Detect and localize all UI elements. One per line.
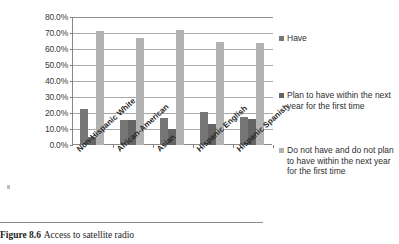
y-axis-tick-labels: 80.0%70.0%60.0%50.0%40.0%30.0%20.0%10.0%… xyxy=(18,11,68,145)
y-axis-tick-label: 70.0% xyxy=(18,29,68,38)
caption-text: Access to satellite radio xyxy=(44,230,134,240)
scan-artifact xyxy=(7,185,10,189)
y-axis-tick-label: 60.0% xyxy=(18,45,68,54)
legend-item[interactable]: Plan to have within the next year for th… xyxy=(279,90,395,111)
bar-group xyxy=(152,17,192,145)
legend-swatch-icon xyxy=(279,148,284,153)
legend-swatch-icon xyxy=(279,93,284,98)
legend-item[interactable]: Have xyxy=(279,33,307,44)
legend-label: Do not have and do not plan to have with… xyxy=(287,145,395,177)
caption-divider xyxy=(0,222,263,223)
y-axis-tick-mark xyxy=(70,145,73,146)
y-axis-tick-label: 80.0% xyxy=(18,13,68,22)
bar xyxy=(176,30,184,145)
figure-satellite-radio: 80.0%70.0%60.0%50.0%40.0%30.0%20.0%10.0%… xyxy=(0,0,399,214)
y-axis-tick-label: 10.0% xyxy=(18,125,68,134)
caption-figure-number: Figure 8.6 xyxy=(0,230,41,240)
legend-label: Have xyxy=(287,33,307,44)
legend-swatch-icon xyxy=(279,36,284,41)
y-axis-tick-label: 40.0% xyxy=(18,77,68,86)
legend-label: Plan to have within the next year for th… xyxy=(287,90,395,111)
y-axis-tick-label: 20.0% xyxy=(18,109,68,118)
legend-item[interactable]: Do not have and do not plan to have with… xyxy=(279,145,395,177)
figure-caption: Figure 8.6 Access to satellite radio xyxy=(0,229,399,241)
x-axis-category-labels: Non-Hispanic WhiteAfrican-AmericanAsianH… xyxy=(72,147,282,213)
y-axis-tick-label: 50.0% xyxy=(18,61,68,70)
y-axis-tick-label: 30.0% xyxy=(18,93,68,102)
y-axis-tick-label: 0.0% xyxy=(18,141,68,150)
